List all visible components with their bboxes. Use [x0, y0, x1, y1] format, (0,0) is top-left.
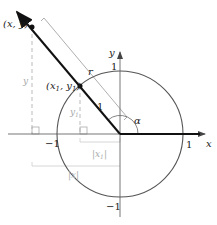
- unit-circle-diagram: (x, y) (x1, y1) r 1 α x y 1 −1 1 −1 y y1…: [0, 0, 217, 225]
- label-vert-y1: y1: [69, 107, 79, 118]
- label-point-outer: (x, y): [3, 18, 29, 29]
- tick-y-neg: −1: [106, 201, 121, 212]
- right-angle-marker-outer: [32, 127, 39, 134]
- point-x-y: [30, 25, 35, 30]
- label-abs-x1: |x1|: [92, 149, 107, 160]
- tick-x-neg: −1: [45, 138, 60, 149]
- label-axis-y: y: [108, 47, 115, 58]
- label-angle: α: [134, 115, 141, 126]
- label-unit-segment: 1: [97, 101, 103, 112]
- label-vert-y: y: [22, 76, 29, 86]
- abs-x-bracket: [32, 162, 120, 166]
- label-axis-x: x: [206, 138, 212, 149]
- abs-x1-bracket: [80, 138, 120, 142]
- label-abs-x: |x|: [68, 170, 79, 181]
- tick-y-pos: 1: [111, 61, 117, 72]
- tick-x-pos: 1: [186, 139, 192, 150]
- right-angle-marker-inner: [80, 127, 87, 134]
- label-r: r: [88, 66, 94, 77]
